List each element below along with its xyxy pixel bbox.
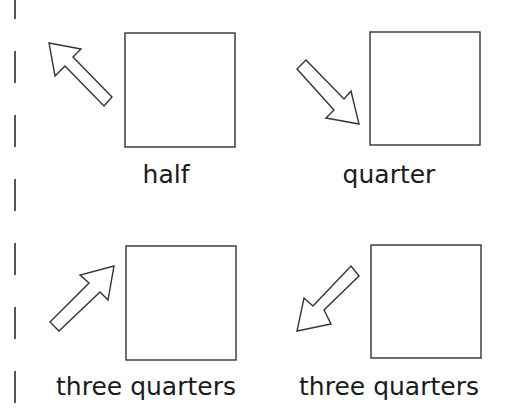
arrow-up-right-icon <box>50 266 114 331</box>
arrow-up-left-icon <box>49 43 112 106</box>
square-quarter <box>370 32 480 145</box>
arrow-down-right-icon <box>297 60 359 124</box>
square-half <box>125 33 235 147</box>
label-three-quarters-left: three quarters <box>56 374 236 399</box>
label-three-quarters-right: three quarters <box>299 374 479 399</box>
square-three-quarters-right <box>371 245 481 358</box>
diagram-canvas <box>0 0 511 415</box>
arrow-down-left-icon <box>297 266 359 331</box>
label-quarter: quarter <box>343 162 436 187</box>
label-half: half <box>143 162 190 187</box>
square-three-quarters-left <box>126 246 236 360</box>
